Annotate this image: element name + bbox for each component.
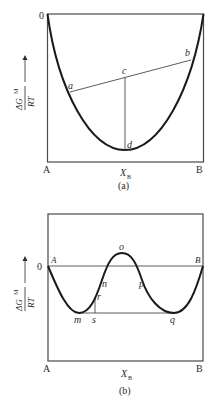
svg-text:X: X [120,368,128,379]
panel-a-point-a: a [68,80,73,91]
panel-b-point-r: r [97,291,101,302]
panel-a-point-c: c [122,65,127,76]
svg-text:M: M [13,88,19,94]
panel-b: 0 A B o n p r m s q A B X B (b) ΔG M RT [13,214,203,397]
panel-b-point-p: p [138,278,144,289]
panel-b-x-axis-label: X B [120,368,132,381]
gibbs-free-energy-diagram: 0 a b c d A B X B (a) ΔG M RT [0,0,217,406]
panel-b-point-q: q [170,314,175,325]
panel-a-right-label: B [196,164,203,175]
panel-b-frame [48,214,203,361]
panel-b-left-label: A [43,363,51,374]
panel-b-zero-label: 0 [37,261,42,272]
panel-a-x-axis-label: X B [119,167,131,180]
panel-b-free-energy-curve [48,253,203,313]
panel-a-tie-line-ab [70,60,191,92]
svg-text:B: B [128,375,132,381]
panel-b-right-label: B [196,363,203,374]
panel-b-y-arrow-icon [23,256,28,261]
panel-a-left-label: A [43,164,51,175]
panel-a-caption: (a) [118,180,129,192]
panel-a-point-b: b [185,47,190,58]
panel-b-y-axis-label: ΔG M RT [13,256,36,312]
svg-text:ΔG: ΔG [14,299,24,312]
svg-text:M: M [13,289,19,295]
panel-b-point-m: m [74,314,81,325]
panel-a-zero-label: 0 [39,10,44,21]
panel-a-y-axis-label: ΔG M RT [13,55,36,111]
panel-b-caption: (b) [119,385,131,397]
panel-b-point-n: n [102,278,107,289]
panel-b-point-s: s [92,314,96,325]
panel-b-curve-label-b: B [195,255,201,265]
panel-a-y-arrow-icon [23,55,28,60]
svg-text:RT: RT [26,96,36,108]
panel-b-point-o: o [119,241,124,252]
svg-text:X: X [119,167,127,178]
panel-a: 0 a b c d A B X B (a) ΔG M RT [13,10,204,192]
svg-text:RT: RT [26,297,36,309]
svg-text:ΔG: ΔG [14,98,24,111]
panel-b-curve-label-a: A [50,255,57,265]
